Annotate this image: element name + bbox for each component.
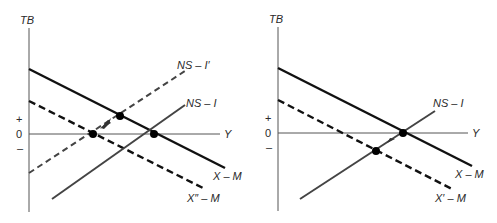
right-minus-label: – — [266, 141, 273, 153]
right-x-minus-m-label: X – M — [454, 168, 485, 180]
left-shift-arrowhead-icon — [100, 120, 111, 129]
trade-balance-diagram: TB Y + 0 – NS – I′ NS – I X – M X″ – M T… — [0, 0, 497, 223]
left-plus-label: + — [16, 113, 22, 125]
right-tb-label: TB — [269, 13, 283, 25]
right-deficit-equilibrium-dot — [372, 147, 380, 155]
left-ns-minus-i-label: NS – I — [186, 97, 217, 109]
right-y-label: Y — [472, 127, 480, 139]
left-panel: TB Y + 0 – NS – I′ NS – I X – M X″ – M — [16, 14, 243, 212]
left-minus-label: – — [17, 142, 24, 154]
left-initial-equilibrium-dot — [116, 112, 124, 120]
left-zero-label: 0 — [16, 128, 22, 140]
right-ns-minus-i-label: NS – I — [433, 97, 464, 109]
left-x-double-prime-minus-m-label: X″ – M — [186, 192, 220, 204]
right-x-prime-minus-m-line — [278, 100, 452, 189]
left-new-equilibrium-dot — [89, 130, 97, 138]
left-balanced-equilibrium-dot — [150, 130, 158, 138]
right-plus-label: + — [265, 112, 271, 124]
right-zero-label: 0 — [265, 127, 271, 139]
left-x-minus-m-label: X – M — [212, 170, 243, 182]
left-ns-minus-i-prime-label: NS – I′ — [177, 59, 211, 71]
left-y-label: Y — [224, 128, 232, 140]
right-ns-minus-i-line — [300, 111, 435, 199]
right-panel: TB Y + 0 – NS – I X – M X′ – M — [265, 13, 485, 211]
right-x-prime-minus-m-label: X′ – M — [434, 192, 467, 204]
right-balanced-equilibrium-dot — [399, 129, 407, 137]
left-tb-label: TB — [20, 14, 34, 26]
